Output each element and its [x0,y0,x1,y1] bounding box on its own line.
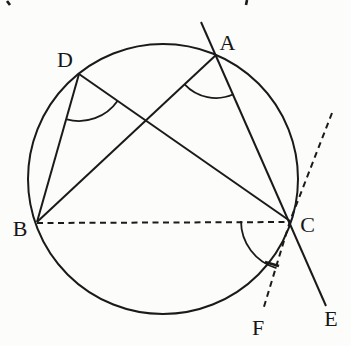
chord-A-B [37,55,216,222]
chord-D-C [79,74,290,221]
main-circle [28,44,298,314]
vertex-label-A: A [220,30,236,55]
vertex-label-F: F [252,315,264,340]
dashed-line-through-C-to-F [263,113,332,310]
secant-line-A-C-E [201,22,326,306]
angle-arc-at-D-BDC [67,101,118,121]
angle-arc-at-A-BAC [185,84,234,98]
vertex-label-B: B [13,216,28,241]
circle-geometry-diagram: ABCDEF [0,0,351,346]
vertex-label-D: D [57,47,73,72]
stray-ink-top-left [7,1,10,5]
vertex-label-E: E [324,306,337,331]
stray-ink-top-right [246,0,247,5]
chord-D-B [37,74,79,222]
vertex-label-C: C [300,212,315,237]
geometry-figure: ABCDEF [0,0,351,346]
dashed-segment-B-C [37,222,290,223]
